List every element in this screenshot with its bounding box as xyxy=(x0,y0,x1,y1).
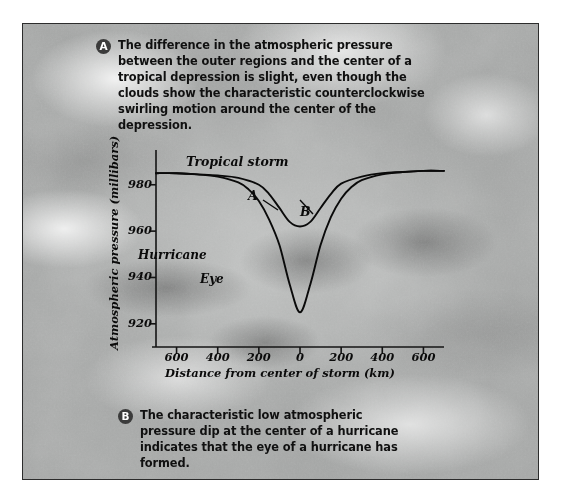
x-tick-label-600: 600 xyxy=(403,350,443,364)
caption-a-badge: A xyxy=(96,39,111,54)
caption-b: B The characteristic low atmospheric pre… xyxy=(118,407,418,471)
caption-b-text: The characteristic low atmospheric press… xyxy=(140,407,418,471)
x-tick-label-400: 400 xyxy=(362,350,402,364)
y-axis-title: Atmospheric pressure (millibars) xyxy=(107,150,121,350)
label-marker-a: A xyxy=(248,188,258,203)
caption-a: A The difference in the atmospheric pres… xyxy=(96,37,426,134)
x-tick-label-400: 400 xyxy=(198,350,238,364)
x-tick-label-600: 600 xyxy=(157,350,197,364)
x-tick-label-0: 0 xyxy=(280,350,320,364)
curve-hurricane xyxy=(156,171,444,312)
label-tropical-storm: Tropical storm xyxy=(186,154,289,169)
pressure-profile-chart: 920940960980 6004002000200400600 Atmosph… xyxy=(100,148,450,388)
caption-b-badge: B xyxy=(118,409,133,424)
x-axis-title: Distance from center of storm (km) xyxy=(130,366,430,380)
x-tick-label-200: 200 xyxy=(239,350,279,364)
label-marker-b: B xyxy=(300,204,311,219)
y-tick-label-980: 980 xyxy=(118,177,152,191)
y-tick-label-960: 960 xyxy=(118,223,152,237)
x-tick-label-200: 200 xyxy=(321,350,361,364)
y-tick-label-920: 920 xyxy=(118,316,152,330)
caption-a-text: The difference in the atmospheric pressu… xyxy=(118,37,426,134)
label-eye: Eye xyxy=(200,272,224,286)
y-tick-label-940: 940 xyxy=(118,269,152,283)
figure-root: A The difference in the atmospheric pres… xyxy=(0,0,564,501)
label-hurricane: Hurricane xyxy=(138,248,207,262)
